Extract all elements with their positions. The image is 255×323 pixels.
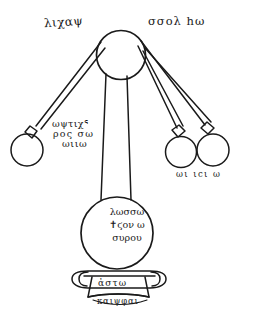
label-flask-line2: ✝ϛον ω [94, 219, 160, 232]
label-bottom-right: ωι ιcι ω [176, 170, 221, 179]
label-flask-line1: λωσσω [94, 206, 160, 219]
label-pedestal-sub: καιψφαι [97, 297, 139, 306]
label-pedestal: ἀστω [98, 279, 127, 288]
right-receiver-sphere [197, 134, 229, 166]
label-top-right: σσολ hω [148, 15, 205, 27]
right-inner-tube [138, 46, 177, 128]
label-mid-left-block: ωψτιχᕐ ρος σω ωιιω [52, 119, 94, 149]
left-receiver-sphere [11, 134, 43, 166]
pedestal-volute-left [79, 272, 88, 286]
center-right-receiver-collar [172, 125, 185, 137]
label-flask-block: λωσσω ✝ϛον ω συρου [94, 206, 160, 244]
right-receiver-collar [201, 122, 214, 134]
pedestal-volute-right [151, 272, 160, 286]
label-mid-left-line3: ωιιω [52, 139, 94, 149]
right-outer-tube-2 [145, 48, 211, 122]
apparatus-drawing [0, 0, 255, 323]
diagram-canvas: λιχαψ σσολ hω ωψτιχᕐ ρος σω ωιιω ωι ιcι … [0, 0, 255, 323]
label-top-left: λιχαψ [44, 15, 84, 30]
left-tube-2 [41, 48, 105, 129]
label-flask-line3: συρου [94, 232, 160, 245]
center-column-right [127, 76, 131, 200]
left-tube [36, 42, 101, 126]
center-column-left [101, 74, 106, 200]
upper-sphere [97, 31, 146, 80]
center-right-receiver-sphere [166, 137, 197, 168]
